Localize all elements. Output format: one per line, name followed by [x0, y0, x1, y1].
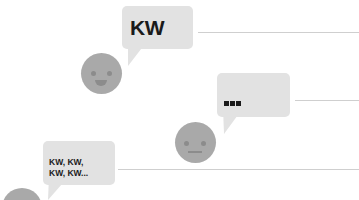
bubble-text-kw: KW	[130, 16, 164, 40]
bubble-text-line-2: KW, KW...	[49, 168, 88, 179]
speech-bubble-2	[217, 73, 290, 117]
bubble-text-line-1: KW, KW,	[49, 157, 83, 168]
left-eye	[91, 71, 96, 76]
ellipsis-icon	[224, 101, 241, 106]
neutral-mouth	[188, 151, 202, 153]
neutral-face-icon	[175, 122, 216, 163]
face-icon	[2, 188, 42, 200]
divider-line-3	[118, 169, 359, 170]
right-eye	[201, 141, 206, 146]
speech-bubble-1: KW	[122, 6, 193, 49]
divider-line-2	[295, 100, 359, 101]
speech-bubble-3: KW, KW, KW, KW...	[43, 141, 115, 185]
divider-line-1	[198, 32, 359, 33]
right-eye	[107, 71, 112, 76]
smiling-face-icon	[81, 53, 122, 94]
left-eye	[184, 141, 189, 146]
smile-mouth	[95, 80, 107, 86]
